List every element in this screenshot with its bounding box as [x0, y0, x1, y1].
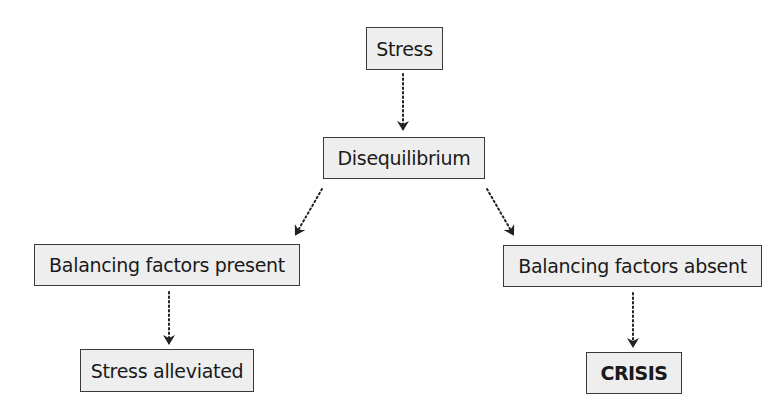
node-balancing-factors-absent-label: Balancing factors absent — [518, 255, 747, 277]
node-stress-alleviated: Stress alleviated — [80, 349, 254, 392]
node-crisis: CRISIS — [586, 352, 682, 394]
arrow-disequilibrium-to-balancing-absent — [487, 189, 513, 234]
arrow-disequilibrium-to-balancing-present — [296, 189, 322, 234]
node-disequilibrium-label: Disequilibrium — [338, 147, 471, 169]
node-balancing-factors-present: Balancing factors present — [34, 244, 300, 286]
flowchart-canvas: Stress Disequilibrium Balancing factors … — [0, 0, 784, 409]
node-disequilibrium: Disequilibrium — [323, 137, 485, 179]
node-balancing-factors-present-label: Balancing factors present — [49, 254, 285, 276]
node-stress-alleviated-label: Stress alleviated — [91, 360, 244, 382]
node-crisis-label: CRISIS — [600, 362, 667, 384]
node-balancing-factors-absent: Balancing factors absent — [503, 245, 762, 287]
node-stress-label: Stress — [376, 38, 433, 60]
node-stress: Stress — [366, 27, 443, 70]
